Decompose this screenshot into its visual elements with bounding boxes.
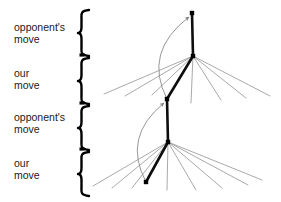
ply-label-4: our move bbox=[14, 158, 40, 181]
ply-brace-4 bbox=[78, 152, 89, 196]
principal-edge-1 bbox=[192, 13, 193, 56]
fan-edge-upper-7 bbox=[193, 56, 270, 96]
leaf-node[interactable] bbox=[144, 180, 148, 184]
ply-label-3: opponent's move bbox=[14, 112, 65, 135]
fan-edge-lower-6 bbox=[168, 142, 222, 188]
ply-label-1: opponent's move bbox=[14, 22, 65, 45]
principal-variation-group bbox=[146, 13, 193, 182]
ply-brace-2 bbox=[78, 58, 89, 104]
fan-edge-upper-4 bbox=[191, 56, 193, 103]
opponent-choice-node[interactable] bbox=[191, 54, 195, 58]
game-tree-figure: opponent's moveour moveopponent's moveou… bbox=[0, 0, 281, 202]
fan-edge-lower-2 bbox=[112, 142, 168, 188]
backup-arrow-group bbox=[137, 17, 189, 182]
ply-brace-1 bbox=[78, 10, 89, 56]
ply-brace-group bbox=[78, 10, 89, 196]
ply-brace-3 bbox=[78, 106, 89, 150]
fan-edge-lower-8 bbox=[168, 142, 262, 180]
opponent-choice-node-lower[interactable] bbox=[166, 140, 170, 144]
fan-edge-upper-1 bbox=[104, 56, 193, 94]
fan-edge-lower-4 bbox=[167, 142, 168, 190]
value-backup-arrow-lower bbox=[137, 103, 164, 182]
principal-edge-3 bbox=[167, 99, 168, 142]
ply-label-2: our move bbox=[14, 68, 40, 91]
fan-edge-lower-7 bbox=[168, 142, 248, 185]
fan-edge-upper-5 bbox=[193, 56, 221, 100]
fan-edge-upper-6 bbox=[193, 56, 246, 98]
root-node[interactable] bbox=[190, 11, 194, 15]
our-choice-node[interactable] bbox=[165, 97, 169, 101]
